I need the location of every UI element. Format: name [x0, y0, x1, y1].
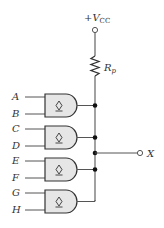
- and-gate-4: [25, 190, 95, 213]
- output-terminal-icon: [137, 150, 142, 155]
- input-c-label: C: [12, 123, 20, 134]
- vcc-terminal-icon: [92, 27, 97, 32]
- input-f-label: F: [11, 172, 20, 183]
- input-h-label: H: [11, 204, 21, 215]
- resistor-label: Rp: [103, 62, 117, 75]
- junction-dot: [93, 135, 98, 140]
- and-gate-1: [25, 94, 97, 117]
- and-gate-3: [25, 158, 97, 181]
- resistor-icon: [91, 56, 99, 76]
- output-x-label: X: [146, 148, 155, 159]
- input-d-label: D: [11, 140, 20, 151]
- junction-dot: [93, 103, 98, 108]
- and-gate-2: [25, 126, 97, 149]
- input-a-label: A: [11, 91, 19, 102]
- input-e-label: E: [11, 155, 20, 166]
- junction-dot: [93, 167, 98, 172]
- input-b-label: B: [11, 108, 19, 119]
- vcc-label: +VCC: [84, 12, 110, 25]
- circuit-diagram: +VCC Rp A B C D X: [0, 0, 164, 228]
- input-g-label: G: [12, 187, 20, 198]
